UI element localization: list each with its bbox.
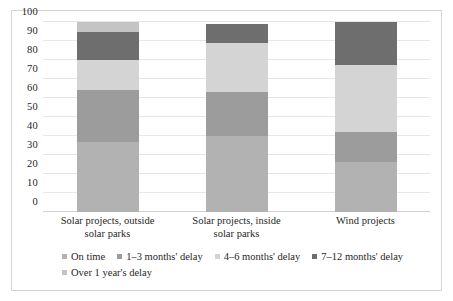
legend-label: 7–12 months' delay [321,250,403,263]
x-category-label-line1: Solar projects, outside [61,215,155,226]
legend-item[interactable]: On time [62,250,105,263]
legend-swatch-icon [62,270,67,275]
y-tick-label-30: 30 [27,140,38,151]
bar-group[interactable] [77,22,139,212]
x-category-label: Solar projects, insidesolar parks [172,214,301,240]
x-category-label-line1: Solar projects, inside [192,215,280,226]
bar-segment[interactable] [77,32,139,61]
y-tick-label-60: 60 [27,83,38,94]
chart-legend: On time1–3 months' delay4–6 months' dela… [43,250,433,282]
bar-group[interactable] [206,22,268,212]
bar-series-container [43,22,430,212]
x-axis-category-labels: Solar projects, outsidesolar parksSolar … [43,214,430,248]
x-category-label-line2: solar parks [43,227,172,240]
bar-segment[interactable] [206,136,268,212]
y-tick-label-70: 70 [27,64,38,75]
bar-segment[interactable] [335,22,397,65]
legend-swatch-icon [62,254,67,259]
y-tick-label-0: 0 [33,197,38,208]
stacked-bar-chart-figure: 0102030405060708090100 Solar projects, o… [0,0,453,301]
x-category-label: Solar projects, outsidesolar parks [43,214,172,240]
bar-segment[interactable] [77,22,139,32]
legend-item[interactable]: Over 1 year's delay [62,266,152,279]
plot-area: 0102030405060708090100 [43,22,430,212]
y-tick-label-100: 100 [22,7,38,18]
legend-item[interactable]: 1–3 months' delay [117,250,203,263]
bar-segment[interactable] [335,132,397,161]
legend-swatch-icon [312,254,317,259]
legend-label: 4–6 months' delay [224,250,301,263]
legend-swatch-icon [215,254,220,259]
y-tick-label-20: 20 [27,159,38,170]
x-category-label-line2: solar parks [172,227,301,240]
y-tick-label-10: 10 [27,178,38,189]
bar-segment[interactable] [77,60,139,90]
legend-label: 1–3 months' delay [126,250,203,263]
y-tick-label-50: 50 [27,102,38,113]
legend-item[interactable]: 7–12 months' delay [312,250,403,263]
y-tick-label-80: 80 [27,45,38,56]
bar-segment[interactable] [206,24,268,43]
y-tick-label-90: 90 [27,26,38,37]
bar-segment[interactable] [77,142,139,212]
legend-swatch-icon [117,254,122,259]
bar-segment[interactable] [206,43,268,92]
y-tick-label-40: 40 [27,121,38,132]
bar-segment[interactable] [335,65,397,132]
bar-group[interactable] [335,22,397,212]
bar-segment[interactable] [77,90,139,141]
legend-item[interactable]: 4–6 months' delay [215,250,301,263]
legend-label: On time [71,250,105,263]
x-category-label-line1: Wind projects [336,215,395,226]
x-category-label: Wind projects [301,214,430,227]
bar-segment[interactable] [335,162,397,212]
legend-label: Over 1 year's delay [71,266,152,279]
bar-segment[interactable] [206,92,268,136]
